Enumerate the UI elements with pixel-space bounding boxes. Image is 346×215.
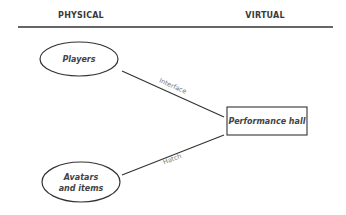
- hatch-edge: Hatch: [122, 135, 224, 175]
- diagram-canvas: PHYSICAL VIRTUAL Players Interface Perfo…: [0, 0, 346, 215]
- interface-edge: Interface: [122, 71, 224, 117]
- avatars-label-line1: Avatars: [63, 173, 99, 182]
- virtual-header: VIRTUAL: [245, 11, 284, 20]
- performance-hall-label: Performance hall: [229, 117, 306, 126]
- hatch-label: Hatch: [162, 152, 183, 166]
- avatars-node: Avatars and items: [42, 162, 120, 202]
- avatars-ellipse: [42, 162, 120, 202]
- interface-arrow: [122, 71, 224, 117]
- players-node: Players: [40, 42, 118, 76]
- avatars-label-line2: and items: [59, 184, 104, 193]
- physical-header: PHYSICAL: [58, 11, 104, 20]
- performance-hall-node: Performance hall: [227, 107, 307, 135]
- interface-label: Interface: [158, 77, 188, 96]
- players-label: Players: [62, 55, 95, 64]
